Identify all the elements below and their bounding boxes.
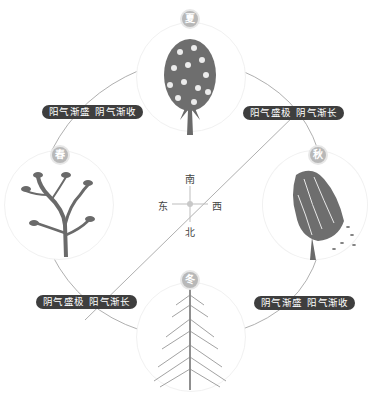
spring-badge: 春 [52,147,68,163]
label-bottom-left: 阴气盛极阳气渐长 [36,295,137,309]
label-top-left: 阳气渐盛阴气渐收 [42,105,143,119]
label-text: 阳气渐长 [89,296,130,307]
label-bottom-right: 阴气渐盛阳气渐收 [254,296,355,310]
sprouting-tree-icon [18,165,98,257]
compass-west: 西 [210,198,224,213]
compass-east: 东 [156,198,170,213]
compass-north: 北 [183,224,197,239]
summer-badge: 夏 [182,11,198,27]
compass-south: 南 [183,171,197,186]
label-top-right: 阳气盛极阴气渐长 [243,106,344,120]
windblown-tree-icon [282,165,362,260]
label-text: 阴气渐盛 [261,297,302,308]
lush-tree-icon [150,30,230,135]
pine-tree-icon [150,285,230,390]
label-text: 阴气盛极 [43,296,84,307]
label-text: 阳气渐收 [307,297,348,308]
four-seasons-yin-yang-diagram: 夏 春 秋 [0,0,370,395]
autumn-badge: 秋 [310,147,326,163]
label-text: 阴气渐收 [95,106,136,117]
winter-badge: 冬 [182,272,198,288]
label-text: 阳气盛极 [250,107,291,118]
label-text: 阳气渐盛 [49,106,90,117]
label-text: 阴气渐长 [296,107,337,118]
